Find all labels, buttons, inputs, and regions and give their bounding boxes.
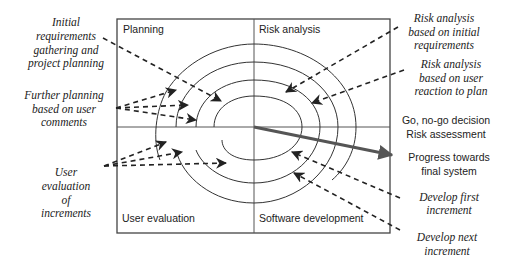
svg-text:Risk analysis: Risk analysis: [413, 12, 475, 25]
progress-arrow: [254, 127, 392, 155]
annotation-progress: Progress towards final system: [408, 151, 490, 177]
spiral-model-diagram: Planning Risk analysis User evaluation S…: [0, 0, 510, 269]
quadrant-label-software-development: Software development: [259, 212, 364, 224]
leader-initial-requirements: [103, 38, 221, 101]
svg-text:project planning: project planning: [27, 57, 104, 70]
svg-text:gathering and: gathering and: [34, 44, 99, 57]
leader-further-planning-1: [116, 90, 176, 108]
svg-text:Initial: Initial: [51, 16, 80, 28]
annotation-go-no-go: Go, no-go decision Risk assessment: [402, 114, 490, 140]
svg-text:Go, no-go decision: Go, no-go decision: [402, 114, 490, 126]
svg-text:comments: comments: [41, 116, 88, 128]
svg-text:Risk analysis: Risk analysis: [420, 58, 482, 71]
quadrant-label-planning: Planning: [123, 23, 164, 35]
spiral: [156, 44, 356, 203]
quadrant-label-risk-analysis: Risk analysis: [259, 23, 320, 35]
annotation-user-evaluation: User evaluation of increments: [41, 166, 92, 219]
svg-text:reaction to plan: reaction to plan: [414, 85, 487, 98]
svg-text:User: User: [55, 166, 78, 178]
svg-text:final system: final system: [421, 165, 477, 177]
svg-text:increment: increment: [424, 245, 470, 257]
svg-text:Further planning: Further planning: [23, 89, 104, 102]
svg-text:based on user: based on user: [32, 103, 96, 115]
annotation-further-planning: Further planning based on user comments: [23, 89, 104, 128]
svg-text:Risk assessment: Risk assessment: [406, 128, 485, 140]
annotation-develop-next: Develop next increment: [416, 231, 478, 257]
spiral-loop-3: [176, 62, 338, 203]
svg-text:increments: increments: [41, 207, 92, 219]
quadrant-label-user-evaluation: User evaluation: [122, 212, 195, 224]
annotation-risk-initial: Risk analysis based on initial requireme…: [408, 12, 480, 52]
svg-text:Develop next: Develop next: [416, 231, 478, 244]
svg-text:based on initial: based on initial: [408, 26, 480, 38]
svg-text:increment: increment: [426, 204, 472, 216]
leader-develop-first: [292, 152, 400, 198]
svg-text:Progress towards: Progress towards: [408, 151, 490, 163]
leader-further-planning-3: [116, 108, 196, 120]
svg-text:Develop first: Develop first: [418, 191, 480, 204]
svg-text:based on user: based on user: [419, 72, 483, 84]
svg-text:evaluation: evaluation: [42, 180, 91, 192]
svg-text:requirements: requirements: [414, 39, 474, 52]
leader-risk-initial: [286, 27, 398, 92]
annotation-develop-first: Develop first increment: [418, 191, 480, 216]
annotation-initial-requirements: Initial requirements gathering and proje…: [27, 16, 104, 70]
annotation-risk-user: Risk analysis based on user reaction to …: [414, 58, 487, 98]
svg-text:requirements: requirements: [36, 30, 96, 43]
leader-user-evaluation-1: [104, 142, 166, 166]
svg-text:of: of: [62, 194, 73, 207]
